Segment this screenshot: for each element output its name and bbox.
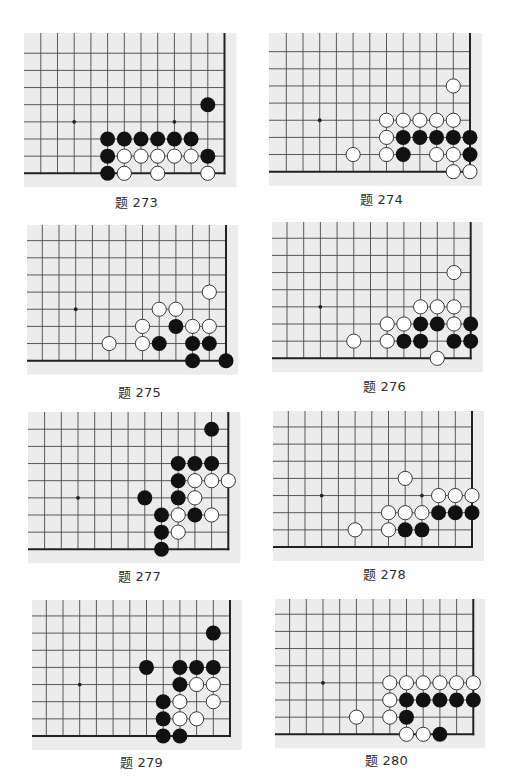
go-board-277	[28, 412, 240, 563]
white-stone	[201, 166, 215, 180]
black-stone	[200, 149, 215, 164]
black-stone	[100, 166, 115, 181]
white-stone	[117, 166, 131, 180]
white-stone	[446, 79, 460, 93]
black-stone	[156, 711, 171, 726]
board-diagram	[273, 411, 484, 561]
white-stone	[446, 113, 460, 127]
black-stone	[137, 490, 152, 505]
black-stone	[396, 334, 411, 349]
white-stone	[465, 488, 479, 502]
problem-caption-277: 题 277	[118, 569, 161, 585]
black-stone	[154, 525, 169, 540]
black-stone	[100, 149, 115, 164]
black-stone	[154, 507, 169, 522]
white-stone	[447, 317, 461, 331]
white-stone	[202, 319, 216, 333]
black-stone	[167, 131, 182, 146]
star-point	[420, 494, 424, 498]
white-stone	[399, 727, 413, 741]
white-stone	[430, 300, 444, 314]
black-stone	[412, 130, 427, 145]
black-stone	[396, 147, 411, 162]
black-stone	[152, 336, 167, 351]
black-stone	[171, 490, 186, 505]
black-stone	[154, 542, 169, 557]
white-stone	[463, 165, 477, 179]
black-stone	[156, 729, 171, 744]
black-stone	[204, 422, 219, 437]
white-stone	[413, 113, 427, 127]
star-point	[320, 494, 324, 498]
black-stone	[172, 677, 187, 692]
black-stone	[413, 334, 428, 349]
white-stone	[380, 334, 394, 348]
black-stone	[399, 710, 414, 725]
white-stone	[349, 710, 363, 724]
white-stone	[399, 676, 413, 690]
problem-caption-280: 题 280	[365, 753, 408, 769]
white-stone	[429, 113, 443, 127]
white-stone	[413, 300, 427, 314]
black-stone	[117, 131, 132, 146]
go-board-280	[275, 599, 485, 748]
white-stone	[173, 695, 187, 709]
white-stone	[433, 676, 447, 690]
black-stone	[430, 316, 445, 331]
go-board-274	[269, 33, 482, 186]
black-stone	[206, 626, 221, 641]
white-stone	[397, 317, 411, 331]
board-diagram	[24, 33, 237, 187]
black-stone	[171, 473, 186, 488]
white-stone	[184, 149, 198, 163]
black-stone	[150, 131, 165, 146]
white-stone	[348, 523, 362, 537]
black-stone	[185, 336, 200, 351]
white-stone	[169, 302, 183, 316]
white-stone	[416, 727, 430, 741]
star-point	[74, 307, 78, 311]
white-stone	[190, 712, 204, 726]
white-stone	[185, 319, 199, 333]
go-board-275	[27, 225, 238, 375]
black-stone	[172, 660, 187, 675]
white-stone	[447, 300, 461, 314]
black-stone	[429, 130, 444, 145]
black-stone	[432, 692, 447, 707]
white-stone	[188, 474, 202, 488]
black-stone	[414, 522, 429, 537]
black-stone	[185, 353, 200, 368]
white-stone	[466, 676, 480, 690]
white-stone	[167, 149, 181, 163]
white-stone	[135, 336, 149, 350]
star-point	[318, 118, 322, 122]
white-stone	[171, 508, 185, 522]
black-stone	[200, 97, 215, 112]
white-stone	[202, 285, 216, 299]
black-stone	[449, 692, 464, 707]
black-stone	[448, 505, 463, 520]
black-stone	[187, 507, 202, 522]
white-stone	[379, 130, 393, 144]
white-stone	[151, 166, 165, 180]
black-stone	[466, 692, 481, 707]
black-stone	[396, 130, 411, 145]
white-stone	[204, 474, 218, 488]
white-stone	[446, 165, 460, 179]
white-stone	[396, 113, 410, 127]
black-stone	[202, 336, 217, 351]
star-point	[78, 683, 82, 687]
board-diagram	[269, 33, 482, 186]
white-stone	[379, 113, 393, 127]
white-stone	[383, 693, 397, 707]
board-diagram	[32, 600, 242, 750]
white-stone	[416, 676, 430, 690]
white-stone	[188, 491, 202, 505]
white-stone	[381, 506, 395, 520]
white-stone	[430, 351, 444, 365]
black-stone	[133, 131, 148, 146]
black-stone	[413, 316, 428, 331]
black-stone	[416, 692, 431, 707]
white-stone	[429, 147, 443, 161]
white-stone	[221, 474, 235, 488]
